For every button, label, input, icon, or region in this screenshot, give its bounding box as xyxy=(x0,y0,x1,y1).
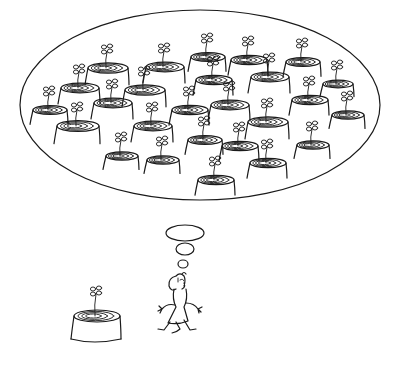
stump-with-sprout xyxy=(103,132,139,169)
thought-bubble-outline xyxy=(20,10,380,200)
stump-with-sprout xyxy=(188,33,226,71)
dreamed-stumps xyxy=(30,33,365,195)
stump-with-sprout xyxy=(71,286,121,342)
stump-with-sprout xyxy=(30,86,68,124)
stump-with-sprout xyxy=(228,36,268,75)
thought-bubble xyxy=(20,10,380,200)
stump-with-sprout xyxy=(193,56,233,95)
stump-with-sprout xyxy=(144,136,180,173)
trail-bubble xyxy=(178,260,188,268)
stump-with-sprout xyxy=(208,81,250,121)
trail-bubble xyxy=(176,243,194,255)
stump-with-sprout xyxy=(185,116,223,154)
thought-bubble-trail xyxy=(166,225,204,268)
stump-with-sprout xyxy=(195,156,235,195)
stump-with-sprout xyxy=(289,76,329,115)
cartoon-illustration xyxy=(0,0,399,376)
stump-with-sprout xyxy=(245,98,289,139)
real-stump-with-sprout xyxy=(71,286,121,342)
stump-with-sprout xyxy=(91,79,133,119)
stump-with-sprout xyxy=(169,86,209,125)
man-figure xyxy=(158,273,202,334)
stump-with-sprout xyxy=(247,139,287,178)
stump-with-sprout xyxy=(283,38,321,76)
stump-with-sprout xyxy=(294,121,330,158)
stump-with-sprout xyxy=(219,122,259,161)
stump-with-sprout xyxy=(85,44,129,85)
trail-bubble xyxy=(166,225,204,241)
stump-with-sprout xyxy=(329,91,365,128)
stump-with-sprout xyxy=(143,43,185,83)
